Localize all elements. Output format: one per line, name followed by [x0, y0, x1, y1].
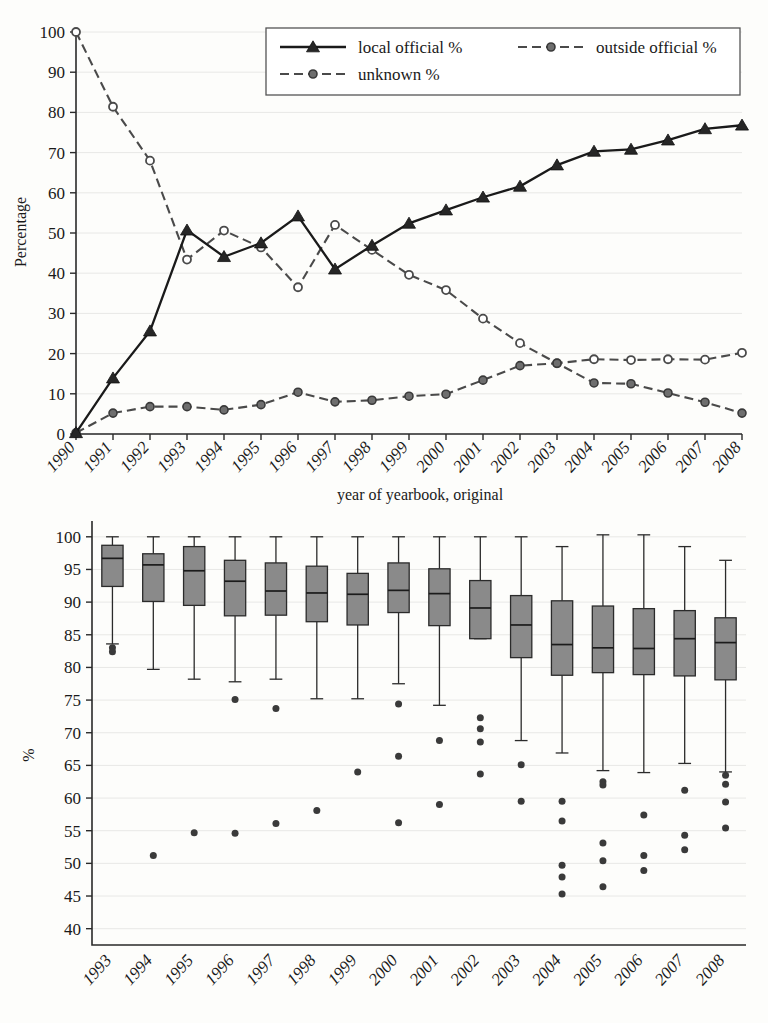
x-tick-label-top: 1998	[338, 438, 375, 476]
box-plot-2008	[715, 560, 736, 831]
box-iqr	[347, 573, 368, 625]
y-tick-label-top: 60	[48, 184, 65, 203]
outlier-point	[681, 832, 688, 839]
data-point-marker	[442, 390, 450, 398]
x-tick-label-top: 2007	[671, 437, 709, 476]
y-tick-label-top: 30	[48, 304, 65, 323]
y-tick-label-top: 80	[48, 103, 65, 122]
x-tick-label-bottom: 2003	[487, 951, 524, 989]
data-point-marker	[479, 315, 487, 323]
x-tick-label-top: 2005	[597, 438, 634, 476]
outlier-point	[191, 829, 198, 836]
x-tick-label-top: 2002	[486, 438, 523, 476]
figure-two-panel: 0102030405060708090100 19901991199219931…	[0, 0, 768, 1023]
x-tick-label-top: 1993	[153, 438, 190, 476]
box-iqr	[511, 596, 532, 658]
box-iqr	[674, 611, 695, 676]
legend-marker-circle	[547, 43, 555, 51]
x-tick-label-top: 2001	[449, 438, 486, 476]
x-tick-label-bottom: 1993	[79, 951, 116, 989]
box-plot-2005	[592, 535, 613, 891]
y-tick-label-bottom: 70	[64, 724, 81, 743]
y-tick-label-bottom: 85	[64, 626, 81, 645]
x-tick-label-top: 2004	[560, 438, 597, 476]
y-axis-title-bottom: %	[20, 748, 37, 761]
box-plot-1996	[224, 537, 245, 837]
outlier-point	[313, 807, 320, 814]
data-point-marker	[72, 28, 80, 36]
box-iqr	[388, 563, 409, 613]
x-tick-label-top: 1997	[301, 437, 339, 476]
y-tick-label-bottom: 95	[64, 560, 81, 579]
outlier-point	[559, 817, 566, 824]
box-iqr	[633, 609, 654, 675]
box-plot-2001	[429, 537, 450, 808]
legend-label: local official %	[358, 38, 462, 57]
data-point-marker	[553, 359, 561, 367]
data-point-marker	[180, 224, 193, 235]
data-point-marker	[331, 221, 339, 229]
outlier-point	[477, 714, 484, 721]
data-point-marker	[146, 403, 154, 411]
outlier-point	[640, 852, 647, 859]
legend-marker-circle	[309, 70, 317, 78]
outlier-point	[232, 696, 239, 703]
y-tick-label-bottom: 45	[64, 887, 81, 906]
data-point-marker	[109, 103, 117, 111]
box-plot-svg: 404550556065707580859095100 199319941995…	[0, 505, 768, 1023]
box-plot-1994	[143, 537, 164, 859]
y-tick-label-bottom: 75	[64, 691, 81, 710]
x-tick-label-top: 2006	[634, 438, 671, 476]
x-tick-label-bottom: 1996	[201, 951, 238, 989]
data-point-marker	[516, 362, 524, 370]
outlier-point	[109, 648, 116, 655]
outlier-point	[150, 852, 157, 859]
box-iqr	[224, 560, 245, 616]
data-point-marker	[590, 379, 598, 387]
outlier-point	[599, 857, 606, 864]
x-tick-label-bottom: 2000	[365, 951, 402, 989]
x-tick-label-bottom: 1995	[160, 951, 197, 989]
box-plot-2003	[511, 537, 532, 805]
outlier-point	[272, 705, 279, 712]
outlier-point	[599, 840, 606, 847]
box-iqr	[551, 601, 572, 675]
outlier-point	[477, 770, 484, 777]
outlier-point	[272, 820, 279, 827]
x-tick-label-bottom: 2005	[569, 951, 606, 989]
y-tick-label-bottom: 90	[64, 593, 81, 612]
x-axis-title-top: year of yearbook, original	[337, 486, 504, 504]
y-tick-label-top: 10	[48, 385, 65, 404]
box-iqr	[592, 606, 613, 673]
outlier-point	[681, 787, 688, 794]
x-tick-label-top: 1996	[264, 438, 301, 476]
x-tick-labels-bottom: 1993199419951996199719981999200020012002…	[79, 950, 729, 989]
x-tick-label-top: 1999	[375, 438, 412, 476]
x-tick-label-bottom: 2002	[446, 951, 483, 989]
data-point-marker	[143, 325, 156, 336]
line-chart-panel: 0102030405060708090100 19901991199219931…	[0, 0, 768, 512]
outlier-point	[640, 867, 647, 874]
x-tick-label-top: 2008	[708, 438, 745, 476]
box-iqr	[470, 581, 491, 639]
data-point-marker	[664, 355, 672, 363]
y-tick-label-bottom: 55	[64, 822, 81, 841]
x-tick-label-top: 1991	[79, 438, 116, 476]
x-tick-label-bottom: 2007	[651, 950, 689, 989]
data-point-marker	[183, 403, 191, 411]
data-point-marker	[627, 380, 635, 388]
legend-top[interactable]: local official %outside official %unknow…	[266, 28, 740, 95]
outlier-point	[477, 725, 484, 732]
box-plot-1993	[102, 537, 123, 655]
outlier-point	[559, 891, 566, 898]
box-plot-2006	[633, 535, 654, 874]
data-point-marker	[331, 398, 339, 406]
data-point-marker	[513, 180, 526, 191]
y-tick-label-top: 70	[48, 144, 65, 163]
data-point-marker	[257, 401, 265, 409]
box-iqr	[143, 554, 164, 602]
line-chart-svg: 0102030405060708090100 19901991199219931…	[0, 0, 768, 512]
x-tick-label-bottom: 1998	[283, 951, 320, 989]
x-tick-label-bottom: 2006	[610, 951, 647, 989]
data-point-marker	[442, 286, 450, 294]
